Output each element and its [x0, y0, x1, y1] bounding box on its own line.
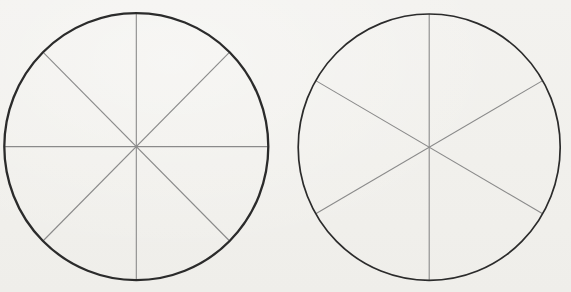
divided-circles-figure [0, 0, 571, 292]
circle-divided-into-eighths [4, 13, 268, 280]
paper-background [0, 0, 571, 292]
circle-divided-into-sixths [298, 14, 560, 280]
